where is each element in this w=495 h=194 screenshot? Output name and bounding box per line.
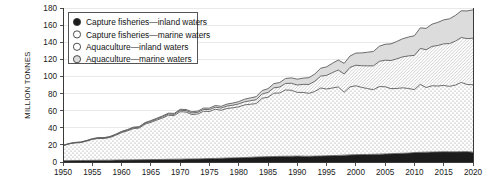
legend-marker-capture_inland	[73, 18, 80, 25]
y-axis-title: MILLION TONNES	[23, 51, 32, 118]
x-tick-label-1985: 1985	[259, 168, 278, 177]
x-tick-label-1995: 1995	[317, 168, 336, 177]
y-tick-label-160: 160	[43, 21, 57, 30]
y-tick-label-100: 100	[43, 72, 57, 81]
x-tick-label-1955: 1955	[83, 168, 102, 177]
legend-marker-aquaculture_inland	[73, 43, 80, 50]
x-axis-tick-labels: 1950195519601965197019751980198519901995…	[54, 162, 483, 177]
y-axis-tick-labels: 020406080100120140160180	[43, 4, 63, 167]
x-tick-label-2015: 2015	[435, 168, 454, 177]
x-tick-label-2005: 2005	[376, 168, 395, 177]
y-tick-label-80: 80	[48, 90, 58, 99]
legend-label-aquaculture_marine: Aquaculture—marine waters	[86, 54, 192, 64]
y-tick-label-40: 40	[48, 124, 58, 133]
legend-label-aquaculture_inland: Aquaculture—inland waters	[86, 42, 188, 52]
y-axis-title-text: MILLION TONNES	[23, 51, 32, 118]
x-tick-label-1965: 1965	[142, 168, 161, 177]
legend-marker-aquaculture_marine	[73, 56, 80, 63]
x-tick-label-1960: 1960	[112, 168, 131, 177]
x-tick-label-2010: 2010	[405, 168, 424, 177]
x-tick-label-1990: 1990	[288, 168, 307, 177]
x-tick-label-1975: 1975	[200, 168, 219, 177]
y-tick-label-60: 60	[48, 107, 58, 116]
chart-legend: Capture fisheries—inland watersCapture f…	[69, 13, 211, 65]
legend-label-capture_inland: Capture fisheries—inland waters	[86, 17, 207, 27]
stacked-area-chart: 020406080100120140160180 195019551960196…	[0, 0, 495, 194]
x-tick-label-2020: 2020	[464, 168, 483, 177]
chart-container: 020406080100120140160180 195019551960196…	[0, 0, 495, 194]
x-tick-label-1970: 1970	[171, 168, 190, 177]
y-tick-label-20: 20	[48, 141, 58, 150]
y-tick-label-120: 120	[43, 55, 57, 64]
x-tick-label-2000: 2000	[347, 168, 366, 177]
x-tick-label-1950: 1950	[54, 168, 73, 177]
y-tick-label-180: 180	[43, 4, 57, 13]
legend-label-capture_marine: Capture fisheries—marine waters	[86, 30, 210, 40]
x-tick-label-1980: 1980	[230, 168, 249, 177]
y-tick-label-140: 140	[43, 38, 57, 47]
y-tick-label-0: 0	[52, 158, 57, 167]
legend-marker-capture_marine	[73, 31, 80, 38]
